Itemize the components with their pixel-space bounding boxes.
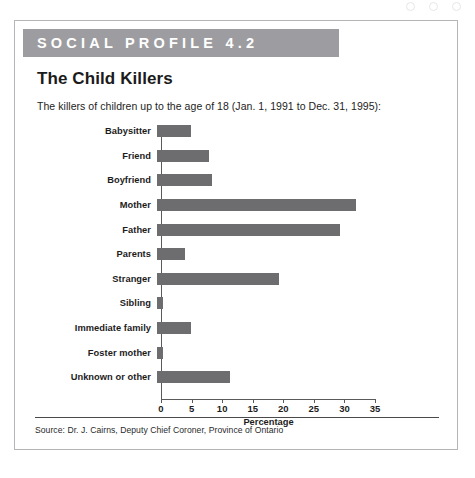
bar-row: Unknown or other [33, 365, 439, 390]
bar-category-label: Boyfriend [33, 175, 157, 185]
bar-row: Mother [33, 193, 439, 218]
chart-subtitle: The killers of children up to the age of… [37, 100, 381, 112]
page-root: SOCIAL PROFILE 4.2 The Child Killers The… [0, 0, 475, 478]
bar [157, 322, 191, 334]
bar-row: Foster mother [33, 340, 439, 365]
x-tick-label: 20 [278, 403, 289, 414]
bar-row: Boyfriend [33, 168, 439, 193]
bar-row: Parents [33, 242, 439, 267]
page-title: The Child Killers [37, 69, 173, 89]
bar [157, 174, 212, 186]
x-tick-label: 10 [217, 403, 228, 414]
profile-banner-label: SOCIAL PROFILE 4.2 [23, 35, 258, 51]
x-tick-label: 5 [189, 403, 194, 414]
bar-category-label: Mother [33, 200, 157, 210]
bar [157, 347, 163, 359]
bar-row: Father [33, 217, 439, 242]
scan-dot-1 [406, 2, 415, 11]
bar [157, 150, 209, 162]
bar-category-label: Friend [33, 151, 157, 161]
bar-row: Sibling [33, 291, 439, 316]
bar-category-label: Stranger [33, 274, 157, 284]
bar [157, 199, 356, 211]
bar-row: Immediate family [33, 316, 439, 341]
bar [157, 297, 163, 309]
scan-artifact-marks [406, 2, 461, 11]
x-tick-label: 30 [339, 403, 350, 414]
bar-category-label: Parents [33, 249, 157, 259]
bar-row: Friend [33, 144, 439, 169]
bar-category-label: Sibling [33, 298, 157, 308]
bar [157, 371, 230, 383]
source-note: Source: Dr. J. Cairns, Deputy Chief Coro… [35, 425, 283, 435]
profile-banner: SOCIAL PROFILE 4.2 [23, 29, 339, 57]
bar-chart: BabysitterFriendBoyfriendMotherFatherPar… [33, 119, 439, 409]
bar-row: Babysitter [33, 119, 439, 144]
x-axis-tick-labels: 05101520253035 [161, 403, 376, 417]
bar-category-label: Unknown or other [33, 372, 157, 382]
bar-category-label: Immediate family [33, 323, 157, 333]
x-tick-label: 35 [370, 403, 381, 414]
x-tick-label: 25 [309, 403, 320, 414]
scan-dot-3 [452, 2, 461, 11]
social-profile-box: SOCIAL PROFILE 4.2 The Child Killers The… [14, 20, 458, 450]
source-divider [35, 417, 439, 418]
scan-dot-2 [429, 2, 438, 11]
bar-category-label: Babysitter [33, 126, 157, 136]
bar-rows: BabysitterFriendBoyfriendMotherFatherPar… [33, 119, 439, 393]
bar-category-label: Father [33, 225, 157, 235]
bar-row: Stranger [33, 267, 439, 292]
x-tick-label: 15 [247, 403, 258, 414]
bar [157, 224, 340, 236]
bar [157, 248, 185, 260]
bar [157, 273, 279, 285]
bar-category-label: Foster mother [33, 348, 157, 358]
x-tick-label: 0 [158, 403, 163, 414]
bar [157, 125, 191, 137]
